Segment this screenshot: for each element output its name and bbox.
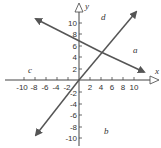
- y-tick-label: -10: [65, 134, 77, 143]
- y-tick-label: -8: [70, 123, 78, 132]
- x-tick-label: 8: [121, 83, 126, 92]
- x-tick-label: 6: [110, 83, 115, 92]
- y-tick-label: 10: [68, 19, 77, 28]
- region-label-b: b: [104, 126, 109, 136]
- x-tick-label: -6: [41, 83, 49, 92]
- x-tick-labels: -10 -8 -6 -4 -2 2 4 6 8 10: [16, 83, 139, 92]
- coordinate-plane: -10 -8 -6 -4 -2 2 4 6 8 10 10 8 6 4 2 -2…: [0, 0, 161, 148]
- y-tick-label: 2: [73, 65, 78, 74]
- y-tick-label: -6: [70, 111, 78, 120]
- y-axis-label: y: [84, 1, 89, 11]
- region-label-d: d: [101, 12, 106, 22]
- x-tick-label: 2: [88, 83, 93, 92]
- x-tick-label: -8: [30, 83, 38, 92]
- x-axis-arrow-icon: [150, 76, 159, 84]
- y-tick-label: 4: [73, 53, 78, 62]
- y-tick-label: 6: [73, 42, 78, 51]
- x-tick-label: -10: [16, 83, 28, 92]
- region-label-a: a: [133, 45, 138, 55]
- x-tick-label: -4: [52, 83, 60, 92]
- y-axis-arrow-icon: [75, 3, 83, 12]
- y-tick-label: -4: [70, 100, 78, 109]
- x-tick-label: 10: [130, 83, 139, 92]
- line-descending-right-arrow: [101, 52, 144, 72]
- region-label-c: c: [28, 65, 32, 75]
- x-axis-label: x: [154, 66, 159, 76]
- x-tick-label: 4: [99, 83, 104, 92]
